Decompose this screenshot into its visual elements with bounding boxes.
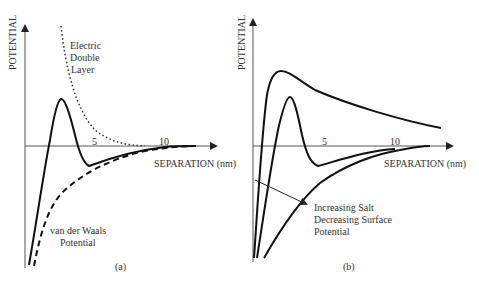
vdw-label-line2: Potential <box>60 237 96 249</box>
x-tick-10-a: 10 <box>159 136 169 148</box>
edl-label-line1: Electric <box>70 40 101 52</box>
caption-b: (b) <box>343 261 355 273</box>
x-axis-label-b: SEPARATION (nm) <box>384 158 466 170</box>
caption-a: (a) <box>115 261 126 273</box>
vdw-label-line1: van der Waals <box>50 225 106 237</box>
trend-label-line3: Potential <box>314 226 350 238</box>
x-axis-label-a: SEPARATION (nm) <box>154 158 236 170</box>
trend-label-line2: Decreasing Surface <box>314 214 392 226</box>
x-tick-10-b: 10 <box>390 136 400 148</box>
y-axis-label-a: POTENTIAL <box>7 15 18 70</box>
x-tick-5-a: 5 <box>92 136 97 148</box>
x-tick-5-b: 5 <box>322 136 327 148</box>
trend-label-line1: Increasing Salt <box>314 202 374 214</box>
total-curve-a <box>29 99 196 265</box>
trend-arrow <box>255 180 306 204</box>
edl-label-line3: Layer <box>71 64 94 76</box>
edl-label-line2: Double <box>70 52 99 64</box>
y-axis-label-b: POTENTIAL <box>236 15 247 70</box>
